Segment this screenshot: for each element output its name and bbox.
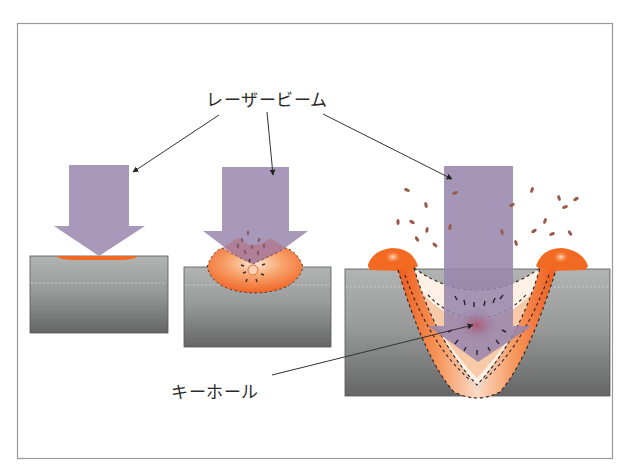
lip-highlight	[385, 251, 401, 263]
keyhole-label: キーホール	[171, 378, 259, 403]
keyhole-glow	[455, 307, 499, 343]
laser-welding-diagram: レーザービーム キーホール	[0, 0, 633, 468]
metal-block-1	[30, 256, 168, 333]
diagram-canvas	[0, 0, 633, 468]
laser-beam-label: レーザービーム	[206, 86, 328, 111]
lip-highlight	[553, 251, 569, 263]
vapor-bubble	[248, 265, 258, 275]
heated-surface	[56, 256, 138, 260]
